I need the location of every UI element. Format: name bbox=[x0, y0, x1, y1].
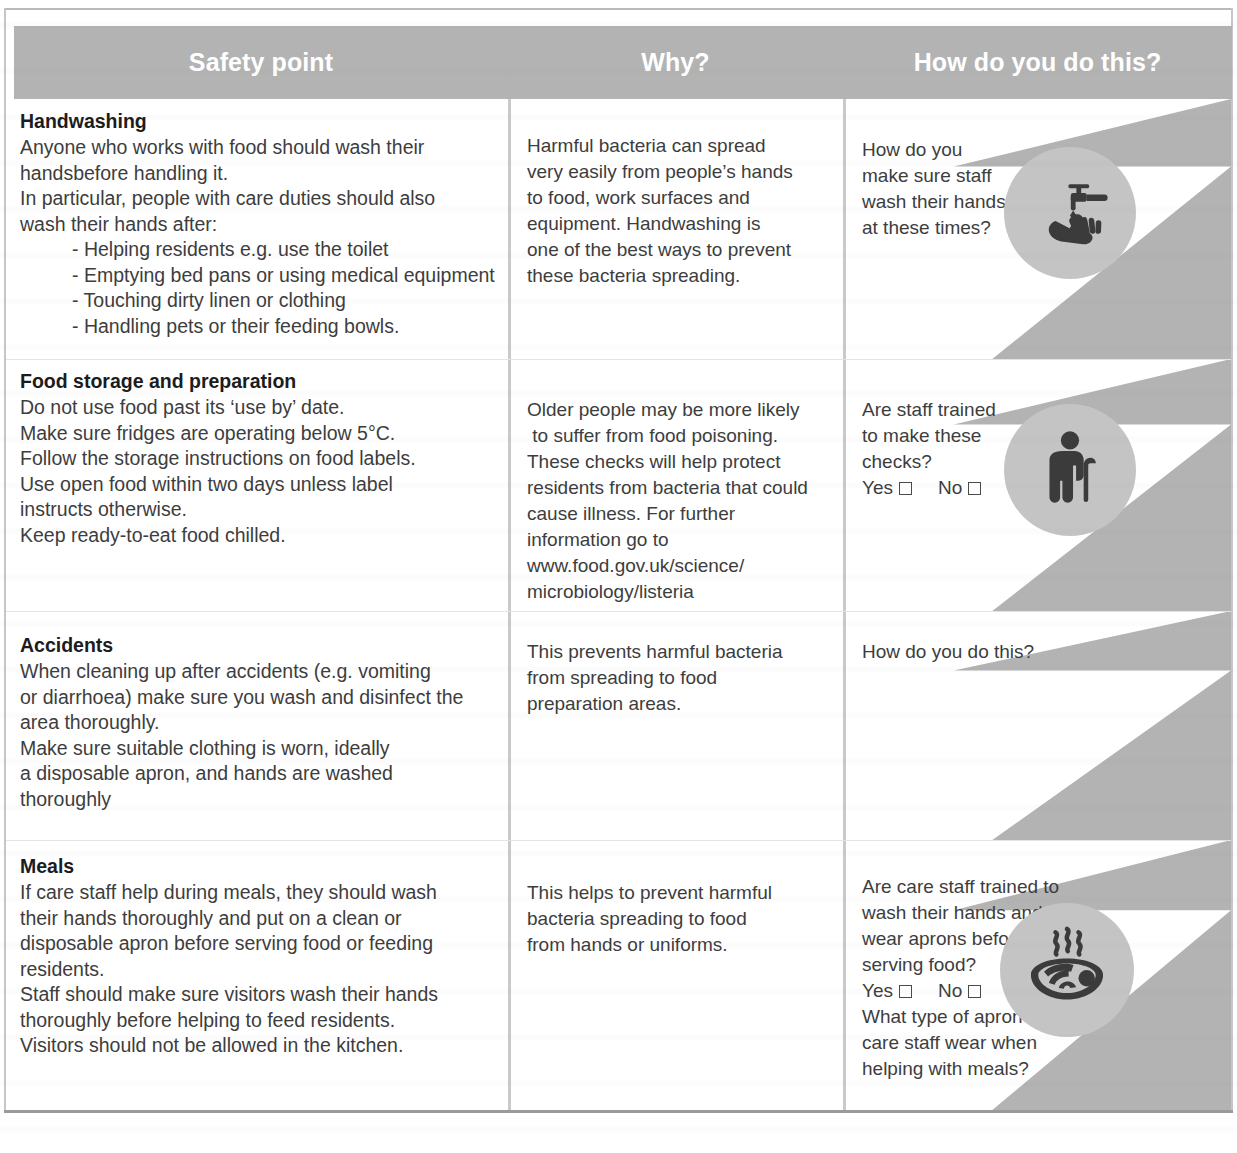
safety-point-title: Meals bbox=[20, 854, 494, 879]
yes-label: Yes bbox=[862, 475, 893, 501]
why-line: This prevents harmful bacteria bbox=[527, 639, 831, 665]
why-line: residents from bacteria that could bbox=[527, 475, 831, 501]
cell-why: Harmful bacteria can spreadvery easily f… bbox=[511, 133, 843, 289]
why-line: from hands or uniforms. bbox=[527, 932, 831, 958]
column-header-why: Why? bbox=[508, 26, 843, 99]
safety-point-line: residents. bbox=[20, 957, 494, 983]
safety-point-line: If care staff help during meals, they sh… bbox=[20, 880, 494, 906]
why-line: information go to bbox=[527, 527, 831, 553]
yes-checkbox[interactable] bbox=[899, 482, 912, 495]
why-line: Harmful bacteria can spread bbox=[527, 133, 831, 159]
safety-point-line: wash their hands after: bbox=[20, 212, 494, 238]
why-line: These checks will help protect bbox=[527, 449, 831, 475]
cell-safety-point: MealsIf care staff help during meals, th… bbox=[6, 854, 508, 1059]
safety-point-line: thoroughly before helping to feed reside… bbox=[20, 1008, 494, 1034]
cell-why: Older people may be more likely to suffe… bbox=[511, 397, 843, 605]
safety-point-line: a disposable apron, and hands are washed bbox=[20, 761, 494, 787]
safety-point-line: Make sure fridges are operating below 5°… bbox=[20, 421, 494, 447]
page-right-rule bbox=[1231, 8, 1233, 1112]
how-line: Are care staff trained to bbox=[862, 874, 1221, 900]
yes-label: Yes bbox=[862, 978, 893, 1004]
tap-handwash-icon-glyph bbox=[1028, 171, 1111, 254]
why-line: to food, work surfaces and bbox=[527, 185, 831, 211]
cell-why: This prevents harmful bacteriafrom sprea… bbox=[511, 639, 843, 717]
safety-point-title: Accidents bbox=[20, 633, 494, 658]
safety-point-line: their hands thoroughly and put on a clea… bbox=[20, 906, 494, 932]
safety-point-bullet: - Emptying bed pans or using medical equ… bbox=[20, 263, 494, 289]
table-header-row: Safety point Why? How do you do this? bbox=[14, 26, 1232, 99]
safety-point-line: Make sure suitable clothing is worn, ide… bbox=[20, 736, 494, 762]
page-top-rule bbox=[4, 8, 1233, 10]
safety-point-line: thoroughly bbox=[20, 787, 494, 813]
column-header-how: How do you do this? bbox=[843, 26, 1232, 99]
table-row: AccidentsWhen cleaning up after accident… bbox=[6, 611, 1231, 840]
how-line: helping with meals? bbox=[862, 1056, 1221, 1082]
safety-point-line: Visitors should not be allowed in the ki… bbox=[20, 1033, 494, 1059]
no-checkbox[interactable] bbox=[968, 985, 981, 998]
safety-point-line: Anyone who works with food should wash t… bbox=[20, 135, 494, 161]
why-line: from spreading to food bbox=[527, 665, 831, 691]
why-line: equipment. Handwashing is bbox=[527, 211, 831, 237]
why-line: these bacteria spreading. bbox=[527, 263, 831, 289]
why-line: cause illness. For further bbox=[527, 501, 831, 527]
why-line: very easily from people’s hands bbox=[527, 159, 831, 185]
safety-point-bullet: - Handling pets or their feeding bowls. bbox=[20, 314, 494, 340]
cell-why: This helps to prevent harmfulbacteria sp… bbox=[511, 880, 843, 958]
cell-safety-point: HandwashingAnyone who works with food sh… bbox=[6, 109, 508, 339]
why-line: www.food.gov.uk/science/ bbox=[527, 553, 831, 579]
safety-point-bullet: - Helping residents e.g. use the toilet bbox=[20, 237, 494, 263]
column-header-why-label: Why? bbox=[641, 48, 709, 77]
steaming-meal-bowl-icon bbox=[1000, 903, 1134, 1037]
safety-points-table-page: Safety point Why? How do you do this? Ha… bbox=[0, 0, 1237, 1153]
steaming-meal-bowl-icon-glyph bbox=[1019, 924, 1114, 1016]
column-header-safety-point-label: Safety point bbox=[189, 48, 333, 77]
why-line: preparation areas. bbox=[527, 691, 831, 717]
yes-checkbox[interactable] bbox=[899, 985, 912, 998]
page-bottom-rule bbox=[4, 1110, 1233, 1113]
no-label: No bbox=[938, 978, 962, 1004]
safety-point-line: or diarrhoea) make sure you wash and dis… bbox=[20, 685, 494, 711]
safety-point-line: In particular, people with care duties s… bbox=[20, 186, 494, 212]
safety-point-line: instructs otherwise. bbox=[20, 497, 494, 523]
why-line: one of the best ways to prevent bbox=[527, 237, 831, 263]
safety-point-line: Use open food within two days unless lab… bbox=[20, 472, 494, 498]
safety-point-line: Keep ready-to-eat food chilled. bbox=[20, 523, 494, 549]
safety-point-title: Handwashing bbox=[20, 109, 494, 134]
safety-point-title: Food storage and preparation bbox=[20, 369, 494, 394]
why-line: microbiology/listeria bbox=[527, 579, 831, 605]
safety-point-line: Follow the storage instructions on food … bbox=[20, 446, 494, 472]
how-line: How do you do this? bbox=[862, 639, 1221, 665]
cell-safety-point: Food storage and preparationDo not use f… bbox=[6, 369, 508, 548]
why-line: to suffer from food poisoning. bbox=[527, 423, 831, 449]
no-checkbox[interactable] bbox=[968, 482, 981, 495]
safety-point-line: handsbefore handling it. bbox=[20, 161, 494, 187]
table-body: HandwashingAnyone who works with food sh… bbox=[6, 99, 1231, 1110]
column-header-how-label: How do you do this? bbox=[914, 48, 1162, 77]
how-line: care staff wear when bbox=[862, 1030, 1221, 1056]
column-header-safety-point: Safety point bbox=[14, 26, 508, 99]
cell-safety-point: AccidentsWhen cleaning up after accident… bbox=[6, 633, 508, 812]
safety-point-line: When cleaning up after accidents (e.g. v… bbox=[20, 659, 494, 685]
elderly-person-with-cane-icon bbox=[1004, 404, 1136, 536]
safety-point-line: Do not use food past its ‘use by’ date. bbox=[20, 395, 494, 421]
cell-how: How do you do this? bbox=[846, 639, 1231, 665]
safety-point-line: area thoroughly. bbox=[20, 710, 494, 736]
safety-point-line: Staff should make sure visitors wash the… bbox=[20, 982, 494, 1008]
elderly-person-with-cane-icon-glyph bbox=[1034, 429, 1107, 511]
why-line: Older people may be more likely bbox=[527, 397, 831, 423]
tap-handwash-icon bbox=[1004, 147, 1136, 279]
safety-point-line: disposable apron before serving food or … bbox=[20, 931, 494, 957]
why-line: This helps to prevent harmful bbox=[527, 880, 831, 906]
no-label: No bbox=[938, 475, 962, 501]
why-line: bacteria spreading to food bbox=[527, 906, 831, 932]
safety-point-bullet: - Touching dirty linen or clothing bbox=[20, 288, 494, 314]
